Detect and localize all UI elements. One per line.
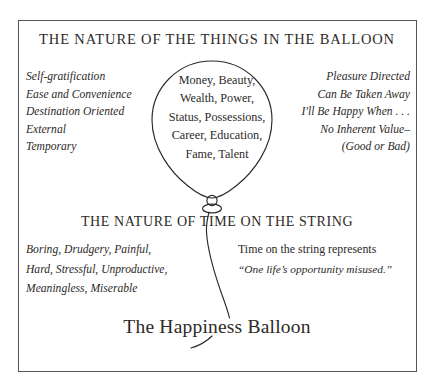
list-item: Meaningless, Miserable	[26, 279, 167, 299]
list-item: (Good or Bad)	[302, 138, 410, 156]
list-item: Self-gratification	[26, 68, 132, 86]
list-item: Wealth, Power,	[139, 89, 295, 107]
list-item: Fame, Talent	[139, 145, 295, 163]
list-item: Career, Education,	[139, 126, 295, 144]
left-attribute-column: Self-gratification Ease and Convenience …	[26, 68, 132, 156]
balloon-contents-list: Money, Beauty, Wealth, Power, Status, Po…	[139, 71, 295, 163]
list-item: Pleasure Directed	[302, 68, 410, 86]
happiness-balloon-diagram: THE NATURE OF THE THINGS IN THE BALLOON …	[0, 0, 434, 392]
heading-things-in-balloon: THE NATURE OF THE THINGS IN THE BALLOON	[0, 31, 434, 48]
list-item: Destination Oriented	[26, 103, 132, 121]
list-item: Temporary	[26, 138, 132, 156]
right-attribute-column: Pleasure Directed Can Be Taken Away I'll…	[302, 68, 410, 156]
time-on-string-meaning: Time on the string represents “One life’…	[238, 240, 392, 279]
list-item: Money, Beauty,	[139, 71, 295, 89]
list-item: External	[26, 121, 132, 139]
time-on-string-attributes: Boring, Drudgery, Painful, Hard, Stressf…	[26, 240, 167, 299]
meaning-statement: Time on the string represents	[238, 240, 392, 260]
meaning-quote: “One life’s opportunity misused.”	[238, 260, 392, 280]
list-item: Can Be Taken Away	[302, 86, 410, 104]
list-item: I'll Be Happy When . . .	[302, 103, 410, 121]
list-item: No Inherent Value–	[302, 121, 410, 139]
list-item: Ease and Convenience	[26, 86, 132, 104]
list-item: Boring, Drudgery, Painful,	[26, 240, 167, 260]
heading-time-on-string: THE NATURE OF TIME ON THE STRING	[0, 214, 434, 230]
page-title: The Happiness Balloon	[0, 316, 434, 338]
list-item: Hard, Stressful, Unproductive,	[26, 260, 167, 280]
list-item: Status, Possessions,	[139, 108, 295, 126]
